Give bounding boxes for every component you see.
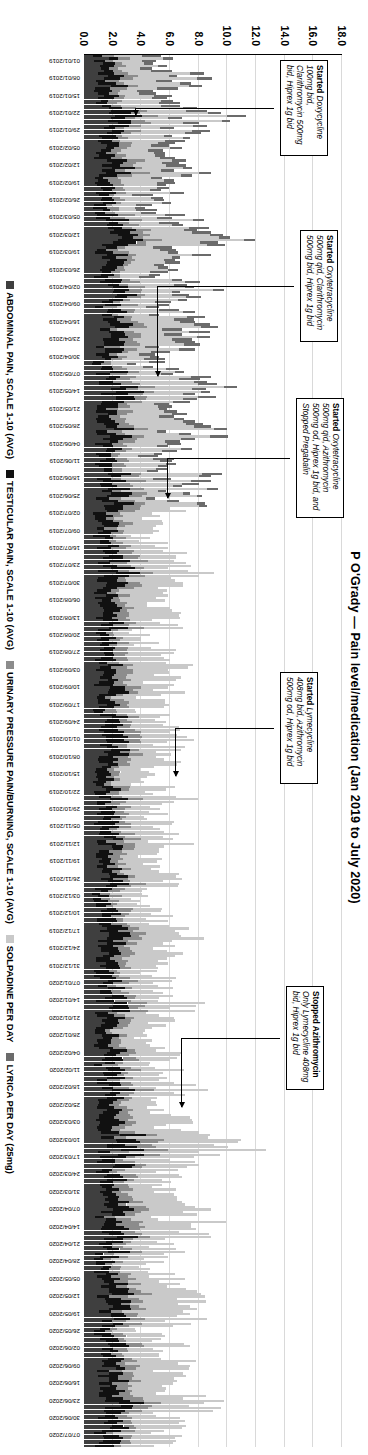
ann-stopped-azithromycin-leader-vertical (182, 1038, 280, 1039)
ann-oxytetracycline-2-arrow-icon (165, 493, 171, 499)
legend-label: TESTICULAR PAIN, SCALE 1-10 (AVG) (5, 481, 15, 650)
ann-oxytetracycline-1-leader-horizontal (157, 286, 158, 376)
chart-landscape: P O'Grady — Pain level/medication (Jan 2… (0, 0, 368, 1455)
legend-swatch-icon (6, 470, 14, 478)
ann-stopped-azithromycin-text: Only Lymecycline 408mg bid, Hiprex 1g bi… (291, 991, 310, 1082)
ann-oxytetracycline-2-bold: Started (331, 403, 340, 433)
ann-oxytetracycline-1-arrow-icon (155, 371, 161, 377)
ann-lymecycline-bold: Started (305, 677, 314, 707)
legend-swatch-icon (6, 281, 14, 289)
ann-stopped-azithromycin-leader-horizontal (181, 1038, 182, 1107)
legend-label: LYRICA PER DAY (25mg) (5, 1064, 15, 1173)
ann-doxycycline-leader-vertical (136, 108, 274, 109)
rotated-chart-canvas: P O'Grady — Pain level/medication (Jan 2… (0, 0, 368, 1455)
ann-stopped-azithromycin-arrow-icon (179, 1102, 185, 1108)
ann-lymecycline-leader-horizontal (175, 728, 176, 776)
ann-doxycycline: Started Doxycycline 100mg bid, Clarithro… (280, 60, 328, 156)
legend-label: URINARY PRESSURE PAIN/BURNING, SCALE 1-1… (5, 672, 15, 924)
annotation-layer: Started Doxycycline 100mg bid, Clarithro… (68, 0, 368, 1455)
ann-lymecycline: Started Lymecycline 408mg bid, Azithromy… (280, 672, 318, 784)
ann-stopped-azithromycin: Stopped Azithromycin Only Lymecycline 40… (286, 986, 324, 1090)
ann-oxytetracycline-2: Started Oxytetracycline 500mg qid, Azith… (296, 398, 344, 518)
legend-swatch-icon (6, 1053, 14, 1061)
ann-lymecycline-leader-vertical (176, 728, 274, 729)
legend-swatch-icon (6, 661, 14, 669)
ann-oxytetracycline-1: Started Oxytetracycline 500mg qid, Clari… (300, 230, 338, 342)
ann-oxytetracycline-1-bold: Started (325, 235, 334, 265)
legend-item-0[interactable]: ABDOMINAL PAIN, SCALE 1-10 (AVG) (5, 281, 15, 459)
ann-oxytetracycline-2-leader-vertical (168, 458, 290, 459)
legend-item-2[interactable]: URINARY PRESSURE PAIN/BURNING, SCALE 1-1… (5, 661, 15, 924)
legend-item-4[interactable]: LYRICA PER DAY (25mg) (5, 1053, 15, 1173)
legend-label: SOLPADINE PER DAY (5, 946, 15, 1043)
ann-doxycycline-arrow-icon (133, 110, 139, 116)
legend-label: ABDOMINAL PAIN, SCALE 1-10 (AVG) (5, 292, 15, 459)
ann-stopped-azithromycin-bold: Stopped Azithromycin (311, 991, 320, 1078)
chart-legend: ABDOMINAL PAIN, SCALE 1-10 (AVG)TESTICUL… (2, 0, 18, 1455)
legend-item-3[interactable]: SOLPADINE PER DAY (5, 935, 15, 1043)
legend-swatch-icon (6, 935, 14, 943)
ann-doxycycline-bold: Started (315, 65, 324, 95)
legend-item-1[interactable]: TESTICULAR PAIN, SCALE 1-10 (AVG) (5, 470, 15, 650)
ann-oxytetracycline-1-leader-vertical (158, 286, 294, 287)
ann-lymecycline-arrow-icon (173, 771, 179, 777)
